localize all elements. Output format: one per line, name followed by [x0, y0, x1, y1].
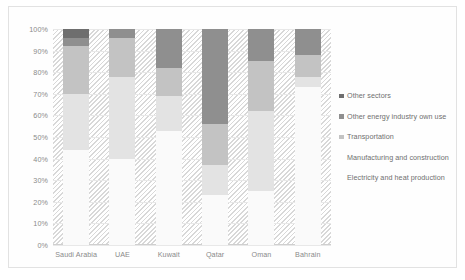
y-axis-tick-label: 20% — [33, 197, 48, 206]
bar-segment[interactable] — [248, 61, 274, 111]
legend-item-label: Transportation — [347, 132, 394, 142]
legend-item-label: Manufacturing and construction — [347, 153, 449, 163]
bar-segment[interactable] — [63, 29, 89, 38]
bar-column[interactable] — [202, 29, 228, 245]
legend-item-label: Electricity and heat production — [347, 173, 445, 183]
bar-segment[interactable] — [295, 29, 321, 55]
bar-series-group — [53, 29, 331, 245]
bar-segment[interactable] — [202, 165, 228, 195]
bar-segment[interactable] — [248, 29, 274, 61]
y-axis-tick-label: 70% — [33, 89, 48, 98]
x-axis-category-labels: Saudi ArabiaUAEKuwaitQatarOmanBahrain — [53, 250, 331, 259]
bar-segment[interactable] — [202, 124, 228, 165]
bar-column[interactable] — [248, 29, 274, 245]
legend-item[interactable]: Electricity and heat production — [339, 173, 461, 183]
legend-swatch-icon — [339, 94, 344, 99]
y-axis-tick-label: 60% — [33, 111, 48, 120]
y-axis-tick-label: 100% — [29, 25, 48, 34]
legend-swatch-icon — [339, 176, 344, 181]
legend-swatch-icon — [339, 135, 344, 140]
bar-segment[interactable] — [63, 150, 89, 245]
legend-item-label: Other energy industry own use — [347, 112, 446, 122]
bar-segment[interactable] — [109, 159, 135, 245]
bar-column[interactable] — [156, 29, 182, 245]
legend-swatch-icon — [339, 155, 344, 160]
legend-item[interactable]: Other sectors — [339, 91, 461, 101]
x-axis-category-label: Bahrain — [285, 250, 331, 259]
bar-segment[interactable] — [202, 29, 228, 124]
legend-swatch-icon — [339, 114, 344, 119]
chart-frame: 100%90%80%70%60%50%40%30%20%10%0% Saudi … — [8, 6, 457, 268]
legend-item[interactable]: Transportation — [339, 132, 461, 142]
bar-segment[interactable] — [109, 77, 135, 159]
legend-item[interactable]: Manufacturing and construction — [339, 153, 461, 163]
legend-item-label: Other sectors — [347, 91, 391, 101]
y-axis-tick-label: 40% — [33, 154, 48, 163]
y-axis-tick-label: 80% — [33, 68, 48, 77]
bar-segment[interactable] — [248, 191, 274, 245]
x-axis-category-label: Qatar — [192, 250, 238, 259]
bar-column[interactable] — [295, 29, 321, 245]
y-axis-tick-label: 30% — [33, 176, 48, 185]
bar-segment[interactable] — [63, 46, 89, 94]
gridline — [53, 245, 331, 246]
bar-segment[interactable] — [63, 94, 89, 150]
x-axis-category-label: Saudi Arabia — [53, 250, 99, 259]
bar-segment[interactable] — [202, 195, 228, 245]
x-axis-category-label: UAE — [99, 250, 145, 259]
bar-segment[interactable] — [295, 77, 321, 88]
plot-area-wrapper: 100%90%80%70%60%50%40%30%20%10%0% — [53, 29, 331, 245]
y-axis-tick-label: 0% — [37, 241, 48, 250]
x-axis-category-label: Oman — [238, 250, 284, 259]
bar-segment[interactable] — [156, 131, 182, 245]
bar-column[interactable] — [63, 29, 89, 245]
y-axis-tick-label: 90% — [33, 46, 48, 55]
bar-segment[interactable] — [156, 29, 182, 68]
bar-segment[interactable] — [109, 38, 135, 77]
y-axis-tick-label: 10% — [33, 219, 48, 228]
chart-legend: Other sectorsOther energy industry own u… — [339, 91, 461, 194]
bar-segment[interactable] — [295, 87, 321, 245]
bar-segment[interactable] — [156, 68, 182, 96]
x-axis-category-label: Kuwait — [146, 250, 192, 259]
stacked-bar-chart: 100%90%80%70%60%50%40%30%20%10%0% Saudi … — [0, 0, 465, 280]
bar-segment[interactable] — [63, 38, 89, 47]
y-axis-tick-label: 50% — [33, 133, 48, 142]
bar-segment[interactable] — [156, 96, 182, 131]
bar-segment[interactable] — [109, 29, 135, 38]
bar-segment[interactable] — [295, 55, 321, 77]
legend-item[interactable]: Other energy industry own use — [339, 112, 461, 122]
bar-segment[interactable] — [248, 111, 274, 191]
bar-column[interactable] — [109, 29, 135, 245]
